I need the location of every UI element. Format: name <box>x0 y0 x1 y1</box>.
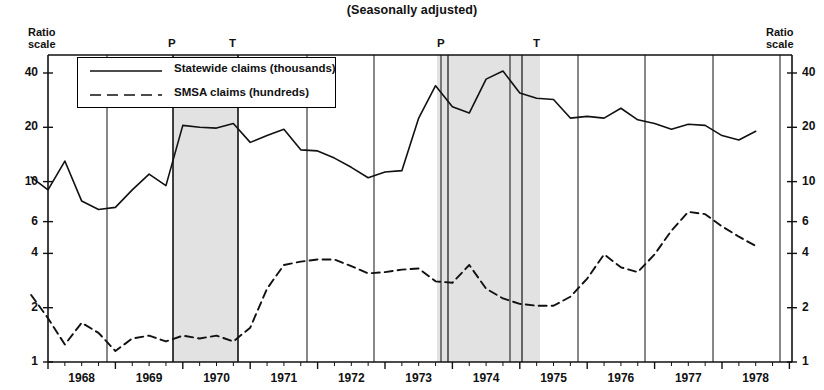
legend-item-statewide: Statewide claims (thousands) <box>78 58 335 82</box>
y-tick-label-right: 1 <box>802 354 824 368</box>
x-tick-label: 1968 <box>47 371 117 385</box>
peak-marker-label: P <box>437 37 445 49</box>
y-tick-label-right: 20 <box>802 119 824 133</box>
y-tick-label-left: 20 <box>12 119 38 133</box>
y-tick-label-right: 6 <box>802 214 824 228</box>
y-tick-label-left: 1 <box>12 354 38 368</box>
x-tick-label: 1971 <box>249 371 319 385</box>
legend-label-smsa: SMSA claims (hundreds) <box>174 86 309 98</box>
trough-marker-label: T <box>229 37 236 49</box>
x-tick-label: 1970 <box>182 371 252 385</box>
legend-key-solid-icon <box>88 58 166 82</box>
legend-label-statewide: Statewide claims (thousands) <box>174 62 336 74</box>
chart-figure: (Seasonally adjusted) Ratio scale Ratio … <box>0 0 824 390</box>
y-tick-label-right: 40 <box>802 65 824 79</box>
y-tick-label-right: 4 <box>802 245 824 259</box>
legend-item-smsa: SMSA claims (hundreds) <box>78 82 335 106</box>
x-tick-label: 1972 <box>316 371 386 385</box>
y-tick-label-left: 2 <box>12 300 38 314</box>
axis-ticks <box>43 73 797 369</box>
chart-legend: Statewide claims (thousands) SMSA claims… <box>77 57 336 108</box>
data-series <box>31 71 756 351</box>
trough-marker-label: T <box>533 37 540 49</box>
y-tick-label-right: 10 <box>802 174 824 188</box>
x-tick-label: 1969 <box>114 371 184 385</box>
legend-key-dashed-icon <box>88 82 166 106</box>
y-tick-label-left: 6 <box>12 214 38 228</box>
y-tick-label-left: 4 <box>12 245 38 259</box>
x-tick-label: 1974 <box>451 371 521 385</box>
y-tick-label-left: 10 <box>12 174 38 188</box>
x-tick-label: 1978 <box>721 371 791 385</box>
x-tick-label: 1976 <box>586 371 656 385</box>
x-tick-label: 1975 <box>519 371 589 385</box>
peak-marker-label: P <box>168 37 176 49</box>
x-tick-label: 1977 <box>653 371 723 385</box>
x-tick-label: 1973 <box>384 371 454 385</box>
y-tick-label-right: 2 <box>802 300 824 314</box>
y-tick-label-left: 40 <box>12 65 38 79</box>
